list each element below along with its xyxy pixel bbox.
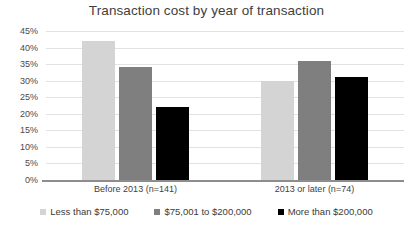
plot-area (46, 31, 404, 180)
legend-item[interactable]: Less than $75,000 (40, 207, 128, 217)
y-axis-tick-label: 15% (20, 126, 38, 135)
legend-swatch-icon (278, 209, 284, 215)
bar (335, 77, 368, 180)
x-axis-line (42, 180, 404, 182)
x-axis-category-labels: Before 2013 (n=141)2013 or later (n=74) (46, 184, 404, 200)
y-axis-tick-label: 25% (20, 93, 38, 102)
bar (298, 61, 331, 180)
legend-label: $75,001 to $200,000 (164, 207, 251, 217)
chart-title: Transaction cost by year of transaction (0, 3, 413, 18)
y-axis-tick-label: 40% (20, 43, 38, 52)
bar (261, 81, 294, 180)
y-axis: 0%5%10%15%20%25%30%35%40%45% (0, 0, 42, 232)
y-axis-tick-label: 45% (20, 27, 38, 36)
legend-label: Less than $75,000 (50, 207, 128, 217)
legend-item[interactable]: More than $200,000 (278, 207, 373, 217)
legend-swatch-icon (154, 209, 160, 215)
y-axis-tick-label: 35% (20, 60, 38, 69)
y-axis-tick-label: 20% (20, 109, 38, 118)
y-axis-tick-label: 0% (25, 176, 38, 185)
x-axis-category-label: 2013 or later (n=74) (275, 184, 354, 194)
x-axis-category-label: Before 2013 (n=141) (94, 184, 177, 194)
bar-group (46, 31, 404, 180)
legend-label: More than $200,000 (288, 207, 373, 217)
legend-swatch-icon (40, 209, 46, 215)
y-axis-tick-label: 5% (25, 159, 38, 168)
y-axis-tick-label: 10% (20, 142, 38, 151)
bar-chart: Transaction cost by year of transaction … (0, 0, 413, 232)
y-axis-tick-label: 30% (20, 76, 38, 85)
legend-item[interactable]: $75,001 to $200,000 (154, 207, 251, 217)
chart-legend: Less than $75,000$75,001 to $200,000More… (0, 207, 413, 217)
